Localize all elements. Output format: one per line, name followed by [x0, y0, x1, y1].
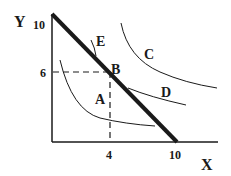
x-tick-4: 4 — [106, 148, 112, 162]
curve-label-c: C — [144, 47, 154, 62]
indifference-curve-diagram: Y X 10 6 4 10 A B C D E — [0, 0, 231, 176]
x-axis-label: X — [201, 156, 213, 173]
y-axis-label: Y — [14, 13, 26, 30]
y-tick-10: 10 — [33, 18, 45, 32]
budget-line — [52, 14, 177, 142]
curve-label-d: D — [161, 85, 171, 100]
x-tick-10: 10 — [169, 148, 181, 162]
diagram-svg: Y X 10 6 4 10 A B C D E — [0, 0, 231, 176]
indifference-curve-c — [121, 23, 217, 88]
y-tick-6: 6 — [40, 66, 46, 80]
curve-label-a: A — [95, 92, 106, 107]
point-label-b: B — [111, 62, 120, 77]
curve-label-e: E — [96, 34, 105, 49]
